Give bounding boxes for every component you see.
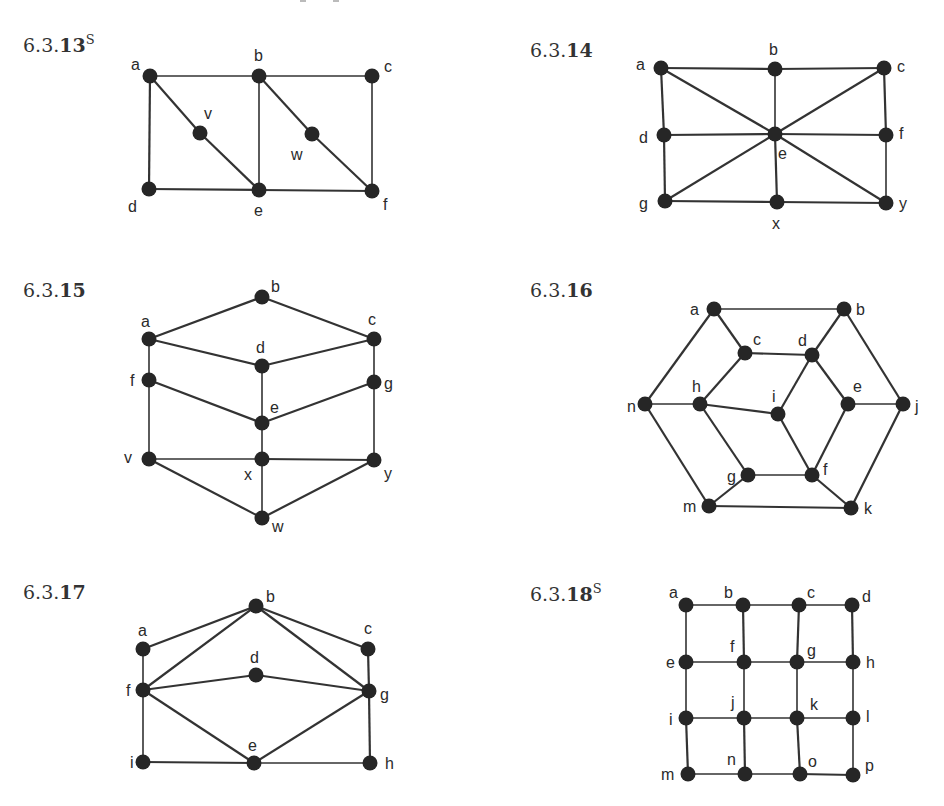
edge-e-f [259,190,372,191]
edge-j-n [744,718,745,774]
edge-b-w [259,76,312,134]
vertex-label-a: a [690,301,699,318]
vertex-label-d: d [256,339,265,356]
vertex-g [367,375,382,390]
vertex-label-g: g [380,686,389,703]
vertex-label-f: f [899,125,904,142]
vertex-f [142,373,157,388]
figure-6-3-13: 6.3.13Sabcvwdef [23,32,392,219]
vertices: abcdhniejgfmk [627,301,919,517]
vertex-label-b: b [769,41,778,58]
edge-v-e [200,133,259,190]
vertex-g [658,194,673,209]
vertex-label-n: n [727,751,736,768]
figure-canvas: 6.3.13Sabcvwdef6.3.14abcdefgxy6.3.15bacd… [0,0,944,806]
vertex-label-g: g [639,195,648,212]
vertex-label-h: h [866,654,875,671]
vertex-d [657,128,672,143]
vertex-label-c: c [364,620,372,637]
vertex-d [805,348,820,363]
vertex-b [255,290,270,305]
figure-label: 6.3.15 [23,279,86,301]
vertex-j [737,711,752,726]
vertex-label-a: a [141,313,150,330]
edge-i-f [778,414,812,475]
vertex-f [737,655,752,670]
vertices: bacdfgevxyw [124,278,393,535]
vertex-b [837,302,852,317]
edge-d-g [664,135,665,201]
vertex-label-g: g [807,642,816,659]
vertex-g [362,684,377,699]
vertex-d [249,668,264,683]
vertex-x [255,452,270,467]
vertex-y [879,196,894,211]
edge-a-c [714,309,745,353]
vertex-label-d: d [250,649,259,666]
edges [149,297,374,518]
vertex-label-g: g [384,375,393,392]
edges [686,605,853,775]
vertex-c [738,346,753,361]
edge-h-i [700,404,778,414]
vertex-w [305,127,320,142]
vertex-e [247,756,262,771]
figure-6-3-18: 6.3.18Sabcdefghijklmnop [530,581,875,783]
vertex-label-b: b [856,301,865,318]
vertex-n [638,397,653,412]
vertices: abcvwdef [128,47,392,219]
vertex-label-m: m [683,498,696,515]
vertex-label-y: y [384,465,392,482]
vertex-label-c: c [807,584,815,601]
vertex-label-d: d [639,129,648,146]
vertex-h [363,756,378,771]
vertex-g [741,468,756,483]
vertex-a [142,332,157,347]
figure-6-3-17: 6.3.17bacdfgeih [23,581,394,772]
vertex-k [844,501,859,516]
vertex-label-w: w [290,146,303,163]
edge-d-e [664,134,775,135]
figure-label: 6.3.13S [23,32,95,56]
figure-6-3-14: 6.3.14abcdefgxy [530,39,907,232]
vertex-label-f: f [823,461,828,478]
edge-a-b [661,68,775,69]
vertex-w [255,511,270,526]
vertex-label-w: w [271,518,284,535]
vertex-label-d: d [798,332,807,349]
vertex-label-p: p [865,757,874,774]
vertex-i [679,711,694,726]
vertex-label-l: l [866,708,870,725]
edge-c-e [775,68,884,134]
edge-d-e [812,355,848,404]
vertex-label-f: f [730,638,735,655]
vertex-label-x: x [772,215,780,232]
vertex-b [252,69,267,84]
vertex-label-g: g [727,468,736,485]
edge-c-g [797,605,799,662]
vertex-label-d: d [128,198,137,215]
vertex-e [252,183,267,198]
vertex-d [255,359,270,374]
edge-e-f [812,404,848,475]
vertex-x [770,195,785,210]
vertex-label-d: d [862,588,871,605]
vertex-label-j: j [730,694,735,711]
edge-x-y [777,202,886,203]
figure-label: 6.3.16 [530,279,593,301]
vertex-label-e: e [853,378,862,395]
vertex-j [896,397,911,412]
vertex-n [738,767,753,782]
vertex-label-m: m [661,766,674,783]
edge-g-h [369,691,370,763]
top-clipped-text [300,0,339,2]
vertex-a [136,642,151,657]
edge-e-f [775,134,886,135]
vertex-e [768,127,783,142]
vertex-a [707,302,722,317]
vertex-c [367,332,382,347]
vertex-l [846,711,861,726]
vertex-i [136,755,151,770]
vertex-e [841,397,856,412]
vertex-e [679,655,694,670]
